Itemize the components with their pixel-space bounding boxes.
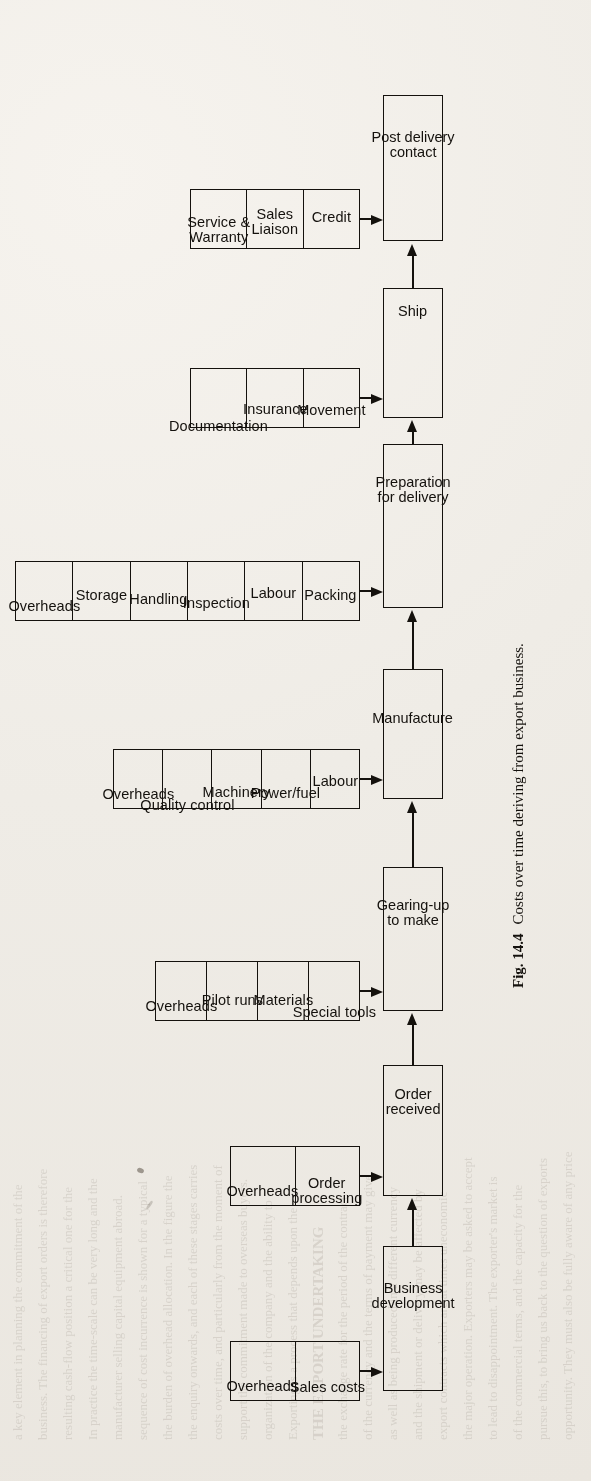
cost-item-label: Credit <box>312 210 351 225</box>
cost-item[interactable]: Movement <box>304 369 359 427</box>
cost-item-label: Sales Liaison <box>252 207 299 237</box>
cost-item[interactable]: Order processing <box>296 1147 360 1205</box>
cost-group-order-received: Overheads Order processing <box>230 1146 360 1206</box>
cost-item[interactable]: Power/fuel <box>262 750 311 808</box>
arrowhead-gearing-to-manufacture <box>407 801 417 813</box>
cost-group-business-development: Overheads Sales costs <box>230 1341 360 1401</box>
cost-item[interactable]: Pilot runs <box>207 962 258 1020</box>
connector-manufacture-to-preparation <box>412 620 414 669</box>
cost-group-preparation-for-delivery: Overheads Storage Handling Inspection La… <box>15 561 360 621</box>
connector-bd-to-order <box>412 1208 414 1246</box>
arrowhead-manufacture-to-preparation <box>407 610 417 622</box>
cost-item[interactable]: Labour <box>311 750 359 808</box>
cost-item[interactable]: Handling <box>131 562 188 620</box>
cost-item[interactable]: Documentation <box>191 369 247 427</box>
cost-group-ship: Documentation Insurance Movement <box>190 368 360 428</box>
arrowhead-costgroup-manufacture <box>371 776 383 786</box>
flow-node-label: Gearing-up to make <box>377 897 450 927</box>
flow-node-preparation-for-delivery[interactable]: Preparation for delivery <box>383 444 443 608</box>
flow-node-gearing-up-to-make[interactable]: Gearing-up to make <box>383 867 443 1011</box>
cost-item-label: Service & Warranty <box>187 215 250 245</box>
scanned-page: opportunity. They must also be fully awa… <box>0 0 591 1481</box>
flow-node-label: Ship <box>398 304 427 319</box>
flow-node-post-delivery-contact[interactable]: Post delivery contact <box>383 95 443 241</box>
flow-node-label: Post delivery contact <box>371 130 454 160</box>
cost-item-label: Special tools <box>292 1004 376 1019</box>
arrowhead-costgroup-ship <box>371 395 383 405</box>
cost-item-label: Order processing <box>292 1176 363 1206</box>
cost-item-label: Handling <box>130 592 188 607</box>
cost-item[interactable]: Overheads <box>16 562 73 620</box>
cost-item[interactable]: Inspection <box>188 562 245 620</box>
connector-order-to-gearing <box>412 1023 414 1065</box>
arrowhead-bd-to-order <box>407 1198 417 1210</box>
figure-caption-text: Costs over time deriving from export bus… <box>510 643 526 924</box>
arrowhead-costgroup-business-development <box>371 1368 383 1378</box>
flow-node-label: Manufacture <box>373 711 454 726</box>
cost-item[interactable]: Storage <box>73 562 130 620</box>
cost-item-label: Overheads <box>8 599 80 614</box>
cost-item[interactable]: Packing <box>303 562 359 620</box>
cost-item[interactable]: Labour <box>245 562 302 620</box>
cost-item-label: Overheads <box>227 1184 299 1199</box>
flow-node-label: Order received <box>386 1086 441 1116</box>
cost-item-label: Labour <box>251 585 297 600</box>
connector-preparation-to-ship <box>412 430 414 444</box>
cost-item[interactable]: Special tools <box>309 962 359 1020</box>
flow-node-label: Preparation for delivery <box>376 475 451 505</box>
arrowhead-order-to-gearing <box>407 1013 417 1025</box>
figure-canvas: Business development Order received Gear… <box>0 0 591 1481</box>
cost-item[interactable]: Sales costs <box>296 1342 360 1400</box>
cost-group-gearing-up-to-make: Overheads Pilot runs Materials Special t… <box>155 961 360 1021</box>
arrowhead-costgroup-gearing-up <box>371 988 383 998</box>
cost-item-label: Packing <box>305 589 357 604</box>
flow-node-ship[interactable]: Ship <box>383 288 443 418</box>
figure-caption: Fig. 14.4Costs over time deriving from e… <box>510 643 527 988</box>
cost-item[interactable]: Credit <box>304 190 359 248</box>
flow-node-label: Business development <box>371 1281 454 1311</box>
arrowhead-costgroup-order-received <box>371 1173 383 1183</box>
connector-ship-to-post-delivery <box>412 254 414 288</box>
cost-item-label: Inspection <box>183 596 250 611</box>
connector-gearing-to-manufacture <box>412 811 414 867</box>
cost-item[interactable]: Service & Warranty <box>191 190 247 248</box>
cost-item[interactable]: Overheads <box>156 962 207 1020</box>
arrowhead-costgroup-post-delivery <box>371 216 383 226</box>
flow-node-order-received[interactable]: Order received <box>383 1065 443 1196</box>
cost-group-manufacture: Overheads Quality control Machinery Powe… <box>113 749 360 809</box>
flow-node-manufacture[interactable]: Manufacture <box>383 669 443 799</box>
figure-caption-label: Fig. 14.4 <box>510 933 526 988</box>
arrowhead-ship-to-post-delivery <box>407 244 417 256</box>
cost-item-label: Movement <box>297 404 366 419</box>
cost-item-label: Storage <box>76 588 128 603</box>
cost-item[interactable]: Overheads <box>231 1147 296 1205</box>
cost-item[interactable]: Insurance <box>247 369 303 427</box>
cost-item[interactable]: Sales Liaison <box>247 190 303 248</box>
cost-item[interactable]: Overheads <box>231 1342 296 1400</box>
cost-group-post-delivery-contact: Service & Warranty Sales Liaison Credit <box>190 189 360 249</box>
cost-item-label: Overheads <box>227 1379 299 1394</box>
cost-item-label: Labour <box>312 773 358 788</box>
flow-node-business-development[interactable]: Business development <box>383 1246 443 1391</box>
arrowhead-costgroup-preparation <box>371 588 383 598</box>
cost-item-label: Sales costs <box>290 1380 365 1395</box>
arrowhead-preparation-to-ship <box>407 420 417 432</box>
